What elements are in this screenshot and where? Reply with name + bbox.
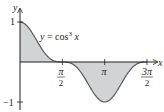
y-axis-label: y xyxy=(12,2,18,13)
x-axis-label: x xyxy=(157,57,163,68)
y-tick-label-1: 1 xyxy=(10,16,15,27)
svg-text:3π: 3π xyxy=(141,66,153,77)
cos-cubed-chart: y x 1 −1 y = cos3 x π 2 π 3π 2 xyxy=(0,0,164,112)
x-tick-label-3pi-over-2: 3π 2 xyxy=(141,66,153,88)
svg-text:2: 2 xyxy=(145,78,150,88)
svg-text:2: 2 xyxy=(59,78,64,88)
function-label: y = cos3 x xyxy=(39,30,79,42)
svg-text:π: π xyxy=(58,66,64,77)
x-tick-label-pi-over-2: π 2 xyxy=(57,66,65,88)
y-tick-label-minus-1: −1 xyxy=(3,97,14,108)
